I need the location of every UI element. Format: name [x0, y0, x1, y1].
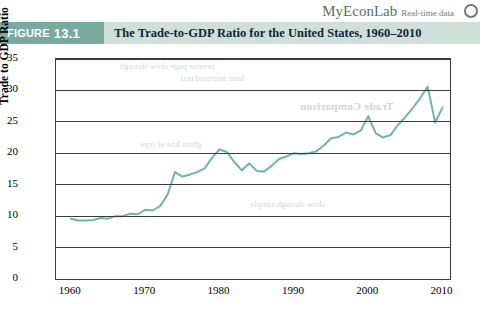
- y-tick-label: 20: [0, 145, 18, 157]
- y-tick-label: 0: [0, 271, 18, 283]
- figure-banner: FIGURE 13.1 The Trade-to-GDP Ratio for t…: [0, 22, 480, 44]
- figure-title: The Trade-to-GDP Ratio for the United St…: [114, 26, 422, 41]
- x-tick-label: 1980: [199, 284, 239, 296]
- y-tick-label: 5: [0, 240, 18, 252]
- gridline: [56, 247, 450, 248]
- figure-tag: FIGURE 13.1: [0, 22, 104, 44]
- gridline: [56, 121, 450, 122]
- figure-title-wrap: The Trade-to-GDP Ratio for the United St…: [104, 22, 480, 44]
- y-tick-label: 25: [0, 114, 18, 126]
- myeconlab-label: MyEconLab: [322, 3, 397, 19]
- x-tick-label: 1990: [273, 284, 313, 296]
- y-tick-label: 15: [0, 177, 18, 189]
- myeconlab-branding: MyEconLabReal-time data: [322, 3, 454, 20]
- gridline: [56, 90, 450, 91]
- y-tick-label: 10: [0, 208, 18, 220]
- trade-to-gdp-line: [56, 59, 450, 279]
- figure-label: FIGURE: [7, 27, 50, 39]
- x-tick-label: 1960: [50, 284, 90, 296]
- y-tick-label: 30: [0, 82, 18, 94]
- x-tick-label: 2000: [347, 284, 387, 296]
- x-tick-label: 1970: [124, 284, 164, 296]
- figure-number: 13.1: [54, 26, 80, 41]
- gridline: [56, 184, 450, 185]
- y-tick-label: 35: [0, 51, 18, 63]
- circle-icon: [464, 4, 478, 18]
- chart-series-layer: [56, 59, 450, 279]
- gridline: [56, 216, 450, 217]
- x-tick-label: 2010: [422, 284, 462, 296]
- gridline: [56, 59, 450, 60]
- gridline: [56, 153, 450, 154]
- realtime-data-label: Real-time data: [401, 8, 454, 18]
- chart-plot-area: [55, 58, 451, 280]
